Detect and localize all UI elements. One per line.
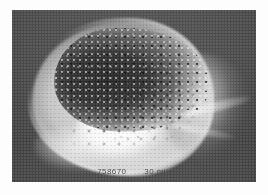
speckle-fringe-posterior [70,114,162,170]
radiograph-photo: 758670 30 min [12,10,256,182]
screenshot-root: 758670 30 min [0,0,268,195]
